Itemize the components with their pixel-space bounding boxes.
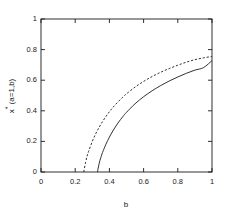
chart-figure: 00.20.40.60.81 00.20.40.60.81 b x* (a=1,… <box>0 0 237 223</box>
plot-frame <box>41 19 212 172</box>
y-tick-label: 0.4 <box>17 107 37 115</box>
y-tick-label: 0.8 <box>17 46 37 54</box>
y-tick-label: 0.6 <box>17 76 37 84</box>
x-tick-label: 0.2 <box>70 178 80 186</box>
x-axis-title: b <box>124 200 128 209</box>
curve-lower-solid <box>97 61 212 172</box>
x-tick-label: 0.4 <box>104 178 114 186</box>
tick-marks <box>41 19 212 172</box>
y-axis-title-args: (a=1,b) <box>7 79 16 107</box>
y-axis-title-variable: x <box>7 109 16 113</box>
x-tick-label: 1 <box>210 178 214 186</box>
y-tick-label: 0 <box>17 168 37 176</box>
y-tick-label: 0.2 <box>17 138 37 146</box>
y-tick-label: 1 <box>17 15 37 23</box>
x-tick-label: 0.6 <box>138 178 148 186</box>
y-axis-title: x* (a=1,b) <box>4 79 16 114</box>
x-tick-label: 0.8 <box>173 178 183 186</box>
x-tick-label: 0 <box>39 178 43 186</box>
y-axis-title-star: * <box>4 107 11 110</box>
curve-upper-dashed <box>84 56 212 172</box>
